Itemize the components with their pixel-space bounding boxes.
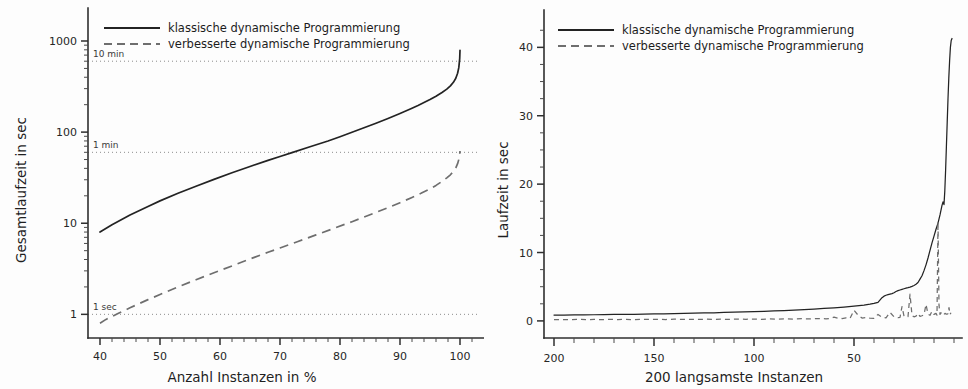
- right-chart-svg: 01020304020015010050 200 langsamste Inst…: [484, 0, 968, 389]
- chart-panel-right: 01020304020015010050 200 langsamste Inst…: [484, 0, 968, 389]
- x-tick-label: 200: [544, 352, 565, 365]
- x-tick-label: 150: [644, 352, 665, 365]
- x-tick-label: 50: [153, 350, 167, 363]
- y-tick-label: 1: [70, 308, 77, 321]
- y-tick-label: 1000: [49, 35, 77, 48]
- left-axes: [88, 8, 484, 338]
- legend-label-klassische: klassische dynamische Programmierung: [168, 21, 400, 35]
- reference-label-1sec: 1 sec: [93, 302, 117, 312]
- y-tick-label: 30: [519, 110, 533, 123]
- x-tick-label: 50: [847, 352, 861, 365]
- y-tick-label: 10: [519, 247, 533, 260]
- y-axis-label: Gesamtlaufzeit in sec: [13, 117, 29, 263]
- left-reference-lines: [88, 61, 480, 314]
- left-tick-marks: [81, 41, 472, 345]
- left-chart-svg: 1101001000405060708090100 10 min 1 min 1…: [0, 0, 484, 389]
- y-tick-label: 0: [526, 315, 533, 328]
- y-tick-label: 20: [519, 178, 533, 191]
- y-tick-label: 100: [56, 126, 77, 139]
- reference-label-1min: 1 min: [93, 140, 119, 150]
- series-line-klassische: [554, 38, 952, 315]
- series-line-klassische: [100, 50, 460, 232]
- left-legend: klassische dynamische Programmierung ver…: [104, 21, 410, 51]
- x-tick-label: 100: [450, 350, 471, 363]
- x-tick-label: 100: [744, 352, 765, 365]
- legend-label-klassische: klassische dynamische Programmierung: [622, 23, 854, 37]
- x-tick-label: 70: [273, 350, 287, 363]
- right-tick-marks: [537, 30, 954, 346]
- y-axis-label: Laufzeit in sec: [495, 141, 511, 238]
- legend-label-verbesserte: verbesserte dynamische Programmierung: [622, 39, 864, 53]
- series-line-verbesserte: [554, 222, 951, 320]
- x-axis-label: Anzahl Instanzen in %: [167, 369, 316, 385]
- figure-root: 1101001000405060708090100 10 min 1 min 1…: [0, 0, 968, 389]
- right-axes: [544, 10, 962, 338]
- y-tick-label: 10: [63, 217, 77, 230]
- right-legend: klassische dynamische Programmierung ver…: [558, 23, 864, 53]
- series-line-verbesserte: [100, 151, 460, 323]
- legend-label-verbesserte: verbesserte dynamische Programmierung: [168, 37, 410, 51]
- x-tick-label: 60: [213, 350, 227, 363]
- x-axis-label: 200 langsamste Instanzen: [645, 369, 823, 385]
- y-tick-label: 40: [519, 41, 533, 54]
- x-tick-label: 80: [333, 350, 347, 363]
- x-tick-label: 40: [93, 350, 107, 363]
- x-tick-label: 90: [393, 350, 407, 363]
- right-tick-labels: 01020304020015010050: [519, 41, 861, 365]
- reference-label-10min: 10 min: [93, 49, 124, 59]
- chart-panel-left: 1101001000405060708090100 10 min 1 min 1…: [0, 0, 484, 389]
